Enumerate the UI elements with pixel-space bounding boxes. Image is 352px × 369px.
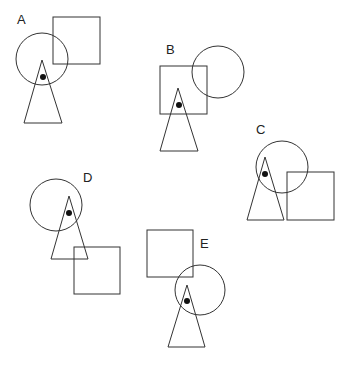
circle-shape: [192, 46, 244, 98]
figure-e: E: [147, 230, 225, 347]
dot-marker: [40, 74, 46, 80]
figure-label-a: A: [17, 12, 26, 27]
dot-marker: [66, 210, 72, 216]
figure-label-d: D: [83, 170, 92, 185]
circle-shape: [175, 265, 225, 315]
triangle-shape: [24, 60, 62, 123]
figure-label-b: B: [166, 42, 175, 57]
square-shape: [74, 247, 120, 294]
triangle-shape: [247, 157, 284, 220]
square-shape: [147, 230, 193, 277]
shapes-diagram: A B C D E: [0, 0, 352, 369]
figure-b: B: [160, 42, 244, 151]
circle-shape: [256, 141, 308, 193]
figure-c: C: [247, 122, 334, 220]
dot-marker: [262, 171, 268, 177]
circle-shape: [30, 179, 82, 231]
figure-label-c: C: [256, 122, 265, 137]
square-shape: [287, 172, 334, 220]
triangle-shape: [160, 88, 198, 151]
figure-label-e: E: [200, 236, 209, 251]
figure-a: A: [16, 12, 100, 123]
dot-marker: [184, 298, 190, 304]
figure-d: D: [30, 170, 120, 294]
triangle-shape: [168, 285, 205, 347]
dot-marker: [176, 102, 182, 108]
